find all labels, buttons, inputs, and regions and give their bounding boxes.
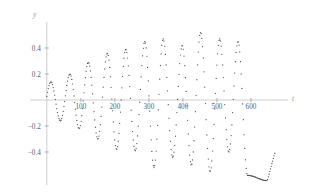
data-point xyxy=(132,131,133,132)
data-point xyxy=(98,138,99,139)
data-point xyxy=(128,65,129,66)
data-point xyxy=(47,92,48,93)
data-point xyxy=(63,111,64,112)
data-point xyxy=(90,70,91,71)
data-point xyxy=(85,77,86,78)
x-tick-label: 400 xyxy=(178,103,189,111)
y-axis-label: y xyxy=(32,10,37,19)
data-point xyxy=(77,124,78,125)
data-point xyxy=(196,79,197,80)
data-point xyxy=(187,120,188,121)
data-point xyxy=(207,148,208,149)
data-point xyxy=(79,127,80,128)
data-point xyxy=(226,129,227,130)
data-point xyxy=(99,131,100,132)
data-point xyxy=(183,49,184,50)
data-point xyxy=(66,85,67,86)
data-point xyxy=(208,159,209,160)
data-point xyxy=(106,56,107,57)
data-point xyxy=(118,133,119,134)
data-point xyxy=(268,174,269,175)
data-point xyxy=(163,40,164,41)
data-point xyxy=(232,112,233,113)
data-point xyxy=(180,54,181,55)
data-point xyxy=(216,64,217,65)
data-point xyxy=(241,88,242,89)
data-point xyxy=(238,44,239,45)
data-point xyxy=(93,111,94,112)
data-point xyxy=(178,86,179,87)
data-point xyxy=(103,86,104,87)
data-point xyxy=(170,141,171,142)
data-point xyxy=(128,75,129,76)
data-point xyxy=(178,74,179,75)
data-point xyxy=(70,74,71,75)
data-point xyxy=(137,135,138,136)
data-point xyxy=(225,117,226,118)
data-point xyxy=(101,106,102,107)
data-point xyxy=(80,125,81,126)
data-point xyxy=(156,139,157,140)
data-point xyxy=(53,90,54,91)
data-point xyxy=(153,165,154,166)
oscillation-plot: 100200300400500600 −0.4−0.20.20.4 y t xyxy=(0,0,312,192)
data-point xyxy=(63,106,64,107)
data-point xyxy=(191,164,192,165)
data-point xyxy=(118,141,119,142)
data-point xyxy=(200,32,201,33)
data-point xyxy=(58,118,59,119)
y-tick-label: 0.4 xyxy=(32,45,41,53)
data-point xyxy=(100,116,101,117)
data-point xyxy=(60,120,61,121)
data-point xyxy=(146,47,147,48)
data-point xyxy=(219,38,220,39)
data-point xyxy=(129,86,130,87)
data-point xyxy=(113,131,114,132)
data-point xyxy=(231,124,232,125)
data-point xyxy=(81,115,82,116)
data-point xyxy=(85,71,86,72)
data-point xyxy=(88,63,89,64)
data-point xyxy=(46,96,47,97)
y-tick-label: −0.4 xyxy=(28,149,41,157)
data-point xyxy=(171,154,172,155)
data-point xyxy=(217,53,218,54)
data-point xyxy=(269,171,270,172)
data-point xyxy=(67,80,68,81)
data-point xyxy=(268,176,269,177)
data-point xyxy=(179,63,180,64)
data-point xyxy=(126,49,127,50)
data-point xyxy=(55,99,56,100)
data-point xyxy=(100,124,101,125)
data-point xyxy=(228,151,229,152)
data-point xyxy=(84,84,85,85)
data-point xyxy=(194,126,195,127)
data-point xyxy=(218,40,219,41)
data-point xyxy=(86,66,87,67)
data-point xyxy=(161,53,162,54)
data-point xyxy=(103,77,104,78)
data-point xyxy=(83,100,84,101)
data-point xyxy=(57,112,58,113)
data-point xyxy=(68,75,69,76)
data-point xyxy=(176,124,177,125)
data-point xyxy=(121,87,122,88)
data-point xyxy=(53,87,54,88)
data-point xyxy=(156,150,157,151)
data-point xyxy=(108,55,109,56)
data-point xyxy=(171,149,172,150)
data-point xyxy=(138,126,139,127)
data-point xyxy=(114,139,115,140)
data-point xyxy=(140,89,141,90)
data-point xyxy=(236,52,237,53)
data-point xyxy=(163,38,164,39)
data-point xyxy=(105,61,106,62)
data-point xyxy=(82,108,83,109)
data-point xyxy=(243,119,244,120)
data-point xyxy=(198,41,199,42)
data-point xyxy=(141,76,142,77)
data-point xyxy=(115,145,116,146)
data-point xyxy=(184,65,185,66)
data-point xyxy=(95,132,96,133)
data-point xyxy=(93,102,94,103)
